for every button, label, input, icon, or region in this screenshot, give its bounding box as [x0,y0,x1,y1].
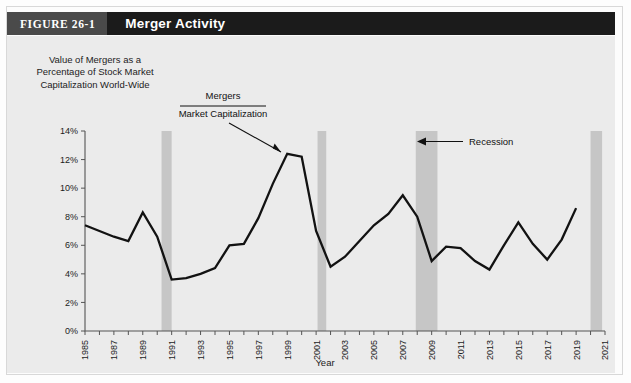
annotation-market-cap-label: Market Capitalization [179,108,268,119]
x-tick-label: 1987 [109,340,119,360]
y-tick-label: 4% [65,269,78,279]
x-tick-label: 2007 [398,340,408,360]
recession-band [416,131,438,331]
y-axis-tick-labels: 0%2%4%6%8%10%12%14% [60,126,78,336]
x-tick-label: 2015 [514,340,524,360]
x-tick-label: 2009 [427,340,437,360]
x-tick-label: 2011 [456,340,466,359]
y-tick-label: 8% [65,212,78,222]
merger-activity-line [85,154,576,280]
x-tick-label: 2005 [369,340,379,360]
x-tick-label: 1995 [225,340,235,360]
y-tick-label: 0% [65,326,78,336]
annotation-recession-label: Recession [469,136,513,147]
x-tick-label: 2003 [340,340,350,360]
recession-band [162,131,172,331]
line-chart: 0%2%4%6%8%10%12%14% 19851987198919911993… [7,36,615,373]
annotation-arrowhead [273,143,281,152]
y-tick-label: 12% [60,155,78,165]
x-tick-label: 1997 [254,340,264,360]
x-tick-label: 1993 [196,340,206,360]
figure-title: Merger Activity [107,12,615,35]
x-tick-label: 1989 [138,340,148,360]
x-tick-label: 2013 [485,340,495,360]
series-annotation: Mergers Market Capitalization [179,90,281,152]
figure-container: FIGURE 26-1 Merger Activity Value of Mer… [0,0,631,383]
y-tick-label: 10% [60,183,78,193]
x-tick-label: 1991 [167,340,177,360]
x-axis-tick-labels: 1985198719891991199319951997199920012003… [80,340,610,360]
figure-number-label: FIGURE 26-1 [7,12,107,35]
x-tick-label: 2019 [572,340,582,360]
recession-band [318,131,327,331]
annotation-mergers-label: Mergers [206,90,241,101]
recession-bands-group [162,131,603,331]
figure-header: FIGURE 26-1 Merger Activity [7,12,615,35]
y-tick-label: 14% [60,126,78,136]
y-tick-label: 2% [65,298,78,308]
x-axis-title: Year [315,357,334,368]
y-tick-label: 6% [65,240,78,250]
recession-band [591,131,603,331]
x-tick-label: 2017 [543,340,553,360]
x-tick-label: 2021 [600,340,610,360]
x-tick-label: 1999 [283,340,293,360]
chart-panel: Value of Mergers as a Percentage of Stoc… [7,36,615,373]
x-tick-label: 1985 [80,340,90,360]
